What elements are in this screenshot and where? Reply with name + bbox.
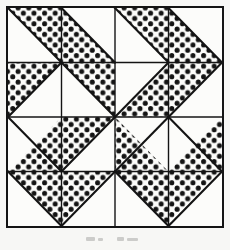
caption-smudge bbox=[84, 236, 144, 243]
quilt-block-figure bbox=[0, 0, 230, 250]
quilt-block-frame bbox=[6, 6, 224, 228]
quilt-block-canvas bbox=[8, 8, 222, 226]
